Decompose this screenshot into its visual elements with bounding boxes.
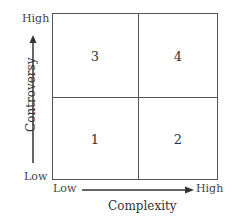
quadrant-bottom-right: 2: [174, 132, 182, 147]
x-axis-high-label: High: [196, 182, 223, 195]
quadrant-top-right: 4: [174, 49, 182, 64]
y-axis-high-label: High: [22, 12, 49, 25]
horizontal-divider: [52, 97, 218, 98]
y-axis-low-label: Low: [24, 170, 47, 183]
x-axis-arrow-icon: [82, 185, 194, 195]
quadrant-top-left: 3: [91, 49, 99, 64]
y-axis-title: Controversy: [24, 62, 38, 132]
quadrant-bottom-left: 1: [91, 132, 99, 147]
x-axis-low-label: Low: [53, 182, 76, 195]
x-axis-title: Complexity: [108, 199, 177, 213]
